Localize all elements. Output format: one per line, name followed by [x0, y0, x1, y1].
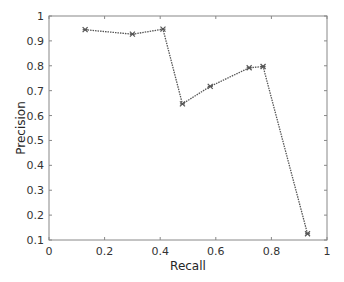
x-tick-label: 0.8 [263, 245, 281, 258]
y-tick-label: 1 [37, 10, 44, 23]
x-tick-label: 0.6 [207, 245, 225, 258]
y-axis-ticks: 0.10.20.30.40.50.60.70.80.91 [27, 10, 328, 247]
y-tick-label: 0.7 [27, 85, 45, 98]
y-tick-label: 0.8 [27, 60, 45, 73]
x-tick-label: 0.2 [96, 245, 114, 258]
data-series [83, 27, 310, 237]
data-point-marker [305, 231, 310, 236]
plot-border [49, 16, 327, 240]
data-point-marker [247, 65, 252, 70]
x-tick-label: 1 [324, 245, 331, 258]
x-axis-label: Recall [170, 259, 206, 273]
x-tick-label: 0 [46, 245, 53, 258]
y-tick-label: 0.3 [27, 184, 45, 197]
x-axis-ticks: 00.20.40.60.81 [46, 16, 331, 258]
data-point-marker [83, 27, 88, 32]
y-tick-label: 0.4 [27, 159, 45, 172]
y-tick-label: 0.2 [27, 209, 45, 222]
plot-frame [49, 16, 327, 240]
y-tick-label: 0.5 [27, 134, 45, 147]
y-tick-label: 0.6 [27, 110, 45, 123]
data-point-marker [208, 84, 213, 89]
series-line [85, 29, 307, 234]
data-point-marker [130, 32, 135, 37]
precision-recall-chart: 00.20.40.60.81 0.10.20.30.40.50.60.70.80… [0, 0, 344, 282]
y-axis-label: Precision [14, 101, 28, 155]
y-tick-label: 0.1 [27, 234, 45, 247]
data-point-marker [261, 64, 266, 69]
x-tick-label: 0.4 [151, 245, 169, 258]
y-tick-label: 0.9 [27, 35, 45, 48]
